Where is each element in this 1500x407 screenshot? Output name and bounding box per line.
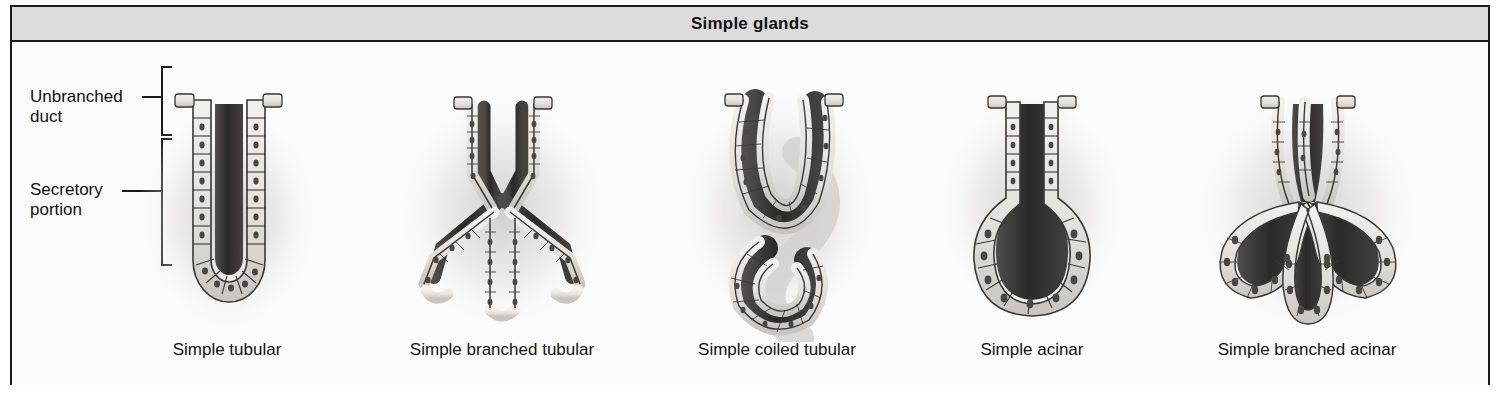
caption-simple-branched-acinar: Simple branched acinar [1177, 340, 1437, 360]
caption-simple-coiled-tubular: Simple coiled tubular [647, 340, 907, 360]
gland-illustration-simple-acinar [902, 52, 1162, 342]
caption-simple-tubular: Simple tubular [97, 340, 357, 360]
gland-illustration-simple-branched-acinar [1177, 52, 1437, 342]
gland-illustration-simple-branched-tubular [372, 52, 632, 342]
gland-illustration-simple-tubular [97, 52, 357, 342]
caption-simple-acinar: Simple acinar [902, 340, 1162, 360]
panel-header: Simple glands [12, 7, 1488, 42]
panel-body: Unbranched duct Secretory portion [12, 42, 1488, 385]
panel-title: Simple glands [691, 14, 809, 34]
caption-simple-branched-tubular: Simple branched tubular [372, 340, 632, 360]
simple-glands-figure-panel: Simple glands Unbranched duct Secretory … [10, 5, 1490, 385]
gland-illustration-simple-coiled-tubular [647, 52, 907, 342]
